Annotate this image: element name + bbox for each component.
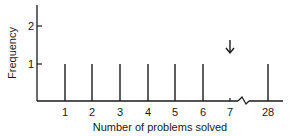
x-tick-label-2: 2 (89, 106, 95, 118)
frequency-chart: 2 1 Frequency 1 2 3 4 5 6 7 28 Number of… (0, 0, 290, 136)
arrow-down-icon (226, 40, 234, 53)
axis-break-icon (238, 97, 249, 104)
x-tick-label-3: 3 (117, 106, 123, 118)
x-tick-label-4: 4 (145, 106, 151, 118)
x-axis-label: Number of problems solved (93, 121, 228, 133)
x-tick-label-1: 1 (62, 106, 68, 118)
x-tick-label-5: 5 (172, 106, 178, 118)
x-tick-label-7: 7 (227, 106, 233, 118)
y-axis-label: Frequency (6, 27, 18, 79)
y-tick-label-1: 1 (28, 58, 34, 70)
x-tick-label-28: 28 (262, 106, 274, 118)
y-tick-label-2: 2 (28, 20, 34, 32)
x-tick-label-6: 6 (200, 106, 206, 118)
